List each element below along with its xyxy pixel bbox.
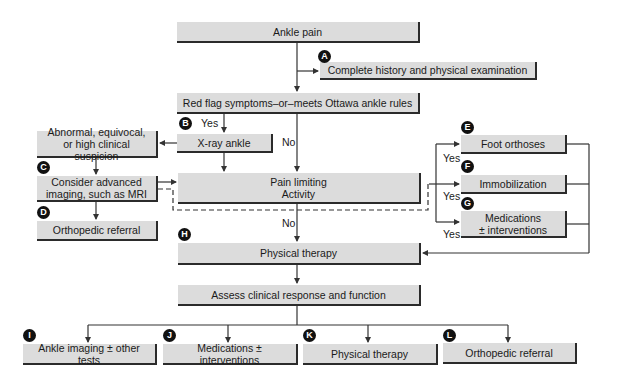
node-medications-line2: ± interventions — [479, 224, 547, 236]
edge-label-yes-e: Yes — [443, 152, 460, 164]
edge-label-yes-f: Yes — [443, 190, 460, 202]
badge-d: D — [37, 206, 50, 219]
badge-c: C — [37, 161, 50, 174]
node-abnormal: Abnormal, equivocal, or high clinical su… — [37, 131, 158, 158]
badge-k: K — [303, 329, 316, 342]
badge-a: A — [318, 50, 331, 63]
node-orthopedic-referral-left-text: Orthopedic referral — [53, 224, 141, 236]
node-foot-orthoses: Foot orthoses — [461, 135, 567, 154]
node-orthopedic-referral-left: Orthopedic referral — [37, 221, 158, 241]
node-pain-limiting-line1: Pain limiting — [270, 176, 327, 188]
badge-f: F — [461, 160, 474, 173]
node-pain-limiting-line2: Activity — [282, 188, 315, 200]
badge-l: L — [443, 329, 456, 342]
badge-h: H — [178, 228, 191, 241]
node-out-physical-therapy-text: Physical therapy — [331, 348, 408, 360]
node-immobilization-text: Immobilization — [479, 178, 546, 190]
badge-j: J — [163, 329, 176, 342]
edge-label-no-red-flag: No — [282, 136, 295, 148]
node-red-flag: Red flag symptoms–or–meets Ottawa ankle … — [177, 93, 420, 114]
node-xray: X-ray ankle — [177, 134, 273, 153]
node-assess: Assess clinical response and function — [178, 285, 421, 306]
badge-i: I — [23, 329, 36, 342]
node-history-exam: Complete history and physical examinatio… — [320, 62, 537, 80]
node-foot-orthoses-text: Foot orthoses — [481, 138, 545, 150]
node-assess-text: Assess clinical response and function — [211, 289, 386, 301]
node-pain-limiting: Pain limiting Activity — [178, 173, 421, 204]
edge-label-yes-b: Yes — [201, 117, 218, 129]
node-immobilization: Immobilization — [461, 175, 567, 194]
node-ankle-pain-text: Ankle pain — [273, 26, 322, 38]
node-physical-therapy: Physical therapy — [178, 243, 421, 265]
node-out-imaging: Ankle imaging ± other tests — [23, 344, 157, 365]
node-out-orthopedic-referral: Orthopedic referral — [443, 343, 577, 364]
node-red-flag-text: Red flag symptoms–or–meets Ottawa ankle … — [183, 97, 412, 109]
node-xray-text: X-ray ankle — [197, 137, 250, 149]
node-out-medications: Medications ± interventions — [163, 344, 298, 365]
node-physical-therapy-text: Physical therapy — [260, 247, 337, 259]
node-medications: Medications ± interventions — [461, 211, 567, 238]
edge-label-yes-g: Yes — [443, 228, 460, 240]
node-consider-imaging: Consider advanced imaging, such as MRI — [37, 176, 158, 202]
node-abnormal-line1: Abnormal, equivocal, — [47, 126, 145, 138]
badge-e: E — [461, 121, 474, 134]
node-abnormal-line2: or high clinical suspicion — [41, 138, 152, 162]
edge-label-no-pain: No — [282, 217, 295, 229]
node-consider-line1: Consider advanced — [51, 176, 141, 188]
node-out-imaging-text: Ankle imaging ± other tests — [27, 342, 151, 366]
badge-g: G — [461, 197, 474, 210]
node-medications-line1: Medications — [485, 212, 541, 224]
node-out-orthopedic-referral-text: Orthopedic referral — [465, 347, 553, 359]
node-out-medications-text: Medications ± interventions — [167, 342, 292, 366]
node-out-physical-therapy: Physical therapy — [303, 344, 438, 365]
node-ankle-pain: Ankle pain — [177, 22, 420, 43]
node-consider-line2: imaging, such as MRI — [46, 188, 147, 200]
node-history-exam-text: Complete history and physical examinatio… — [328, 64, 528, 76]
badge-b: B — [179, 117, 192, 130]
